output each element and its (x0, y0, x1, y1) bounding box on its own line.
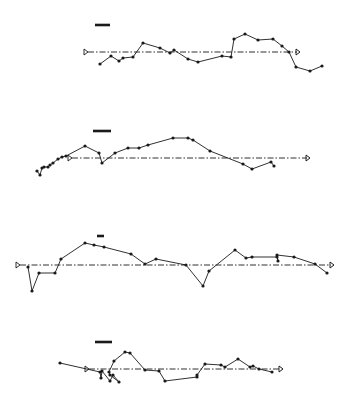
data-point (171, 136, 174, 139)
data-point (241, 162, 244, 165)
data-point (143, 368, 146, 371)
start-triangle-icon (16, 262, 20, 268)
data-point (129, 252, 132, 255)
data-point (275, 253, 278, 256)
data-point (163, 379, 166, 382)
data-point (108, 379, 111, 382)
data-point (26, 265, 29, 268)
data-point (186, 57, 189, 60)
data-point (208, 149, 211, 152)
data-point (292, 255, 295, 258)
data-point (157, 369, 160, 372)
data-point (207, 269, 210, 272)
data-point (219, 363, 222, 366)
data-point (131, 55, 134, 58)
data-point (269, 160, 272, 163)
data-point (191, 138, 194, 141)
data-point (243, 32, 246, 35)
data-point (30, 289, 33, 292)
data-point (97, 151, 100, 154)
data-point (272, 164, 275, 167)
data-point (38, 173, 41, 176)
data-point (109, 54, 112, 57)
data-point (92, 243, 95, 246)
data-point (111, 373, 114, 376)
trace-panel-4 (58, 342, 283, 384)
data-line (60, 352, 272, 382)
data-point (280, 44, 283, 47)
data-point (53, 271, 56, 274)
data-point (271, 37, 274, 40)
trace-panel-2 (35, 131, 310, 177)
data-point (59, 257, 62, 260)
data-point (236, 357, 239, 360)
data-point (58, 361, 61, 364)
figure (0, 0, 354, 407)
data-point (112, 359, 115, 362)
data-point (308, 69, 311, 72)
data-point (37, 271, 40, 274)
data-point (294, 65, 297, 68)
trace-panel-1 (84, 25, 324, 73)
data-point (250, 167, 253, 170)
data-point (220, 54, 223, 57)
data-point (102, 245, 105, 248)
data-point (42, 165, 45, 168)
data-point (168, 51, 171, 54)
data-line (37, 138, 274, 175)
data-point (48, 163, 51, 166)
data-point (113, 151, 116, 154)
start-triangle-icon (68, 155, 72, 161)
data-point (35, 169, 38, 172)
data-point (83, 144, 86, 147)
data-point (232, 37, 235, 40)
end-arrow-icon (279, 366, 283, 372)
data-point (244, 256, 247, 259)
data-point (313, 262, 316, 265)
data-point (121, 56, 124, 59)
data-point (158, 46, 161, 49)
data-point (256, 38, 259, 41)
data-point (64, 154, 67, 157)
data-point (186, 136, 189, 139)
data-point (251, 364, 254, 367)
data-point (117, 380, 120, 383)
data-point (201, 284, 204, 287)
data-point (172, 48, 175, 51)
data-point (320, 64, 323, 67)
data-point (107, 370, 110, 373)
figure-canvas (0, 0, 354, 407)
data-point (98, 62, 101, 65)
data-point (248, 365, 251, 368)
data-point (126, 146, 129, 149)
data-line (28, 243, 327, 291)
data-point (250, 255, 253, 258)
start-triangle-icon (84, 49, 88, 55)
trace-panel-3 (16, 236, 334, 293)
data-point (154, 257, 157, 260)
data-point (146, 143, 149, 146)
data-point (229, 55, 232, 58)
data-point (325, 271, 328, 274)
data-point (100, 369, 103, 372)
data-point (287, 50, 290, 53)
data-point (203, 362, 206, 365)
data-point (141, 41, 144, 44)
data-point (123, 350, 126, 353)
data-point (270, 370, 273, 373)
data-point (117, 59, 120, 62)
data-point (143, 262, 146, 265)
data-point (51, 161, 54, 164)
data-point (223, 365, 226, 368)
data-point (196, 60, 199, 63)
data-point (137, 146, 140, 149)
data-point (100, 161, 103, 164)
data-point (99, 376, 102, 379)
data-point (184, 263, 187, 266)
data-point (56, 157, 59, 160)
data-point (83, 241, 86, 244)
data-point (233, 248, 236, 251)
data-point (276, 259, 279, 262)
data-point (257, 367, 260, 370)
data-point (195, 373, 198, 376)
